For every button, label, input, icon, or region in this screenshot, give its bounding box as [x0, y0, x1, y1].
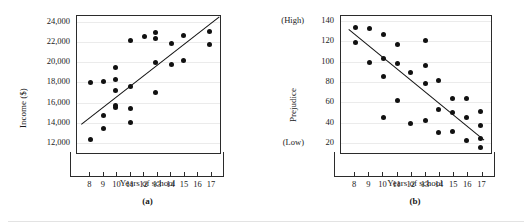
y-axis-tick [340, 62, 341, 63]
y-axis-tick [76, 123, 77, 124]
x-axis-tick [103, 172, 104, 176]
x-axis-tick [184, 172, 185, 176]
data-point [381, 74, 386, 79]
y-axis-tick-label: 60 [290, 97, 334, 106]
y-axis-tick-label: 40 [290, 118, 334, 127]
gridline-y [77, 22, 220, 23]
gridline-y [341, 143, 491, 144]
x-axis-tick [453, 172, 454, 176]
gridline-y [341, 21, 491, 22]
y-axis-tick [76, 143, 77, 144]
data-point [207, 29, 212, 34]
x-axis-tick-label: 17 [201, 180, 221, 189]
x-axis-tick [116, 172, 117, 176]
x-axis-tick [197, 172, 198, 176]
data-point [101, 126, 106, 131]
y-axis-tick-label: 16,000 [26, 98, 70, 107]
y-axis-tick-label: 20 [290, 138, 334, 147]
gridline-y [77, 143, 220, 144]
y-axis-tick-label: 24,000 [26, 17, 70, 26]
x-axis-tick [482, 172, 483, 176]
data-point [381, 32, 386, 37]
data-point [101, 113, 106, 118]
data-point [153, 30, 158, 35]
data-point [113, 65, 118, 70]
data-point [423, 118, 428, 123]
x-axis-tick [157, 172, 158, 176]
data-point [113, 77, 118, 82]
gridline-y [77, 62, 220, 63]
y-axis-tick [76, 42, 77, 43]
panel-caption-b: (b) [340, 196, 490, 206]
gridline-y [341, 62, 491, 63]
data-point [450, 110, 455, 115]
x-axis-tick [382, 172, 383, 176]
x-axis-tick-label: 17 [472, 180, 492, 189]
data-point [169, 41, 174, 46]
regression-line [348, 29, 484, 140]
data-point [478, 109, 483, 114]
panel-b: Prejudice (High) (Low) Years of school (… [266, 0, 532, 223]
y-axis-tick-label: 18,000 [26, 77, 70, 86]
data-point [367, 60, 372, 65]
y-axis-tick [340, 21, 341, 22]
data-point [381, 115, 386, 120]
y-axis-tick-label: 100 [290, 57, 334, 66]
data-point [207, 42, 212, 47]
x-axis-tick [467, 172, 468, 176]
data-point [450, 129, 455, 134]
data-point [113, 88, 118, 93]
data-point [128, 106, 133, 111]
data-point [353, 40, 358, 45]
x-axis-tick [411, 172, 412, 176]
gridline-y [341, 123, 491, 124]
y-axis-tick-label: 12,000 [26, 138, 70, 147]
x-axis-tick [143, 172, 144, 176]
y-axis-tick [340, 41, 341, 42]
y-axis-tick-label: 80 [290, 77, 334, 86]
gridline-y [77, 123, 220, 124]
plot-area-b [340, 15, 492, 154]
data-point [153, 36, 158, 41]
y-axis-tick-label: 14,000 [26, 118, 70, 127]
data-point [436, 130, 441, 135]
y-axis-tick [340, 143, 341, 144]
data-point [181, 33, 186, 38]
y-axis-tick-label: 120 [290, 36, 334, 45]
y-axis-tick [340, 123, 341, 124]
data-point [395, 42, 400, 47]
x-axis-tick [170, 172, 171, 176]
x-axis-tick [211, 172, 212, 176]
data-point [423, 63, 428, 68]
y-axis-tick-label: 140 [290, 16, 334, 25]
data-point [367, 26, 372, 31]
data-point [478, 123, 483, 128]
x-axis-right-stub [223, 152, 224, 177]
data-point [408, 70, 413, 75]
panel-caption-a: (a) [76, 196, 219, 206]
data-point [436, 107, 441, 112]
panel-a: Income ($) Years of school (a) 12,00014,… [0, 0, 266, 223]
gridline-y [341, 82, 491, 83]
data-point [128, 84, 133, 89]
data-point [478, 145, 483, 150]
gridline-y [77, 103, 220, 104]
y-axis-tick [340, 82, 341, 83]
plot-area-a [76, 15, 221, 154]
y-axis-tick-label: 22,000 [26, 37, 70, 46]
gridline-y [77, 42, 220, 43]
data-point [88, 137, 93, 142]
data-point [450, 96, 455, 101]
data-point [423, 81, 428, 86]
data-point [408, 121, 413, 126]
data-point [464, 96, 469, 101]
x-axis-tick [89, 172, 90, 176]
x-axis-line [334, 176, 494, 177]
x-axis-line [70, 176, 223, 177]
gridline-y [77, 82, 220, 83]
x-axis-tick [397, 172, 398, 176]
data-point [395, 61, 400, 66]
x-axis-tick [439, 172, 440, 176]
y-axis-tick [76, 22, 77, 23]
x-axis-tick [130, 172, 131, 176]
